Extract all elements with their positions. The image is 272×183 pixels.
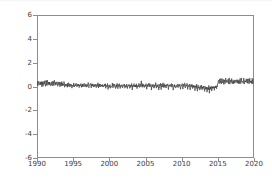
x-tick-mark: [73, 158, 74, 162]
x-tick-label: 1990: [28, 161, 46, 168]
series-polyline: [37, 78, 253, 93]
y-tick-label: 2: [28, 59, 32, 66]
x-tick-mark: [182, 158, 183, 162]
x-tick-label: 2015: [209, 161, 227, 168]
y-tick-label: 0: [28, 83, 32, 90]
y-tick-label: -4: [25, 131, 32, 138]
figure-top-edge: [0, 0, 272, 2]
series-line-residual: [37, 15, 254, 158]
y-tick-label: 4: [28, 35, 32, 42]
x-tick-label: 2000: [100, 161, 118, 168]
x-tick-label: 1995: [64, 161, 82, 168]
y-tick-label: 6: [28, 12, 32, 19]
x-tick-label: 2005: [137, 161, 155, 168]
x-tick-mark: [146, 158, 147, 162]
x-tick-mark: [109, 158, 110, 162]
x-tick-label: 2010: [173, 161, 191, 168]
x-tick-label: 2020: [245, 161, 263, 168]
x-tick-mark: [254, 158, 255, 162]
y-tick-label: -2: [25, 107, 32, 114]
x-tick-mark: [218, 158, 219, 162]
plot-area: [37, 15, 254, 158]
x-tick-mark: [37, 158, 38, 162]
chart-figure: -6-4-20246 1990199520002005201020152020: [0, 0, 272, 183]
